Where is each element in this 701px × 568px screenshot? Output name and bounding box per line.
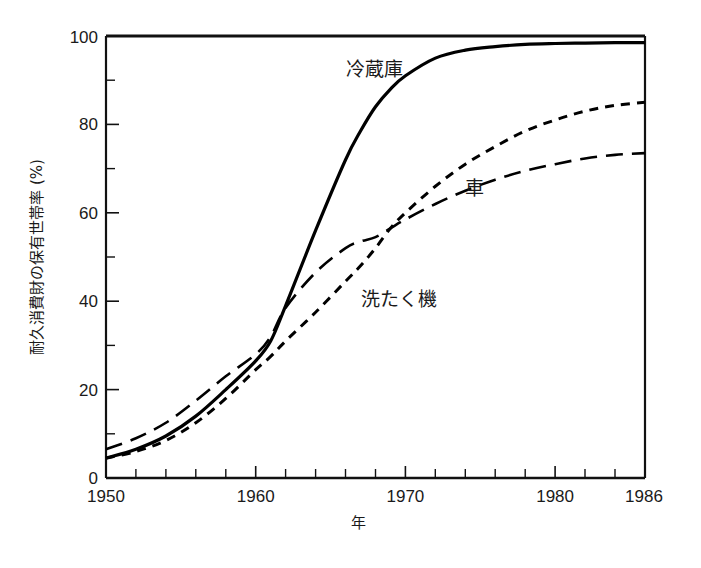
data-curves: [106, 43, 645, 459]
y-tick-label: 0: [89, 469, 98, 488]
series-line-car: [106, 102, 645, 458]
series-annotation-refrigerator: 冷蔵庫: [346, 58, 403, 80]
x-tick-label: 1980: [536, 487, 574, 506]
x-tick-label: 1970: [386, 487, 424, 506]
x-tick-label: 1950: [87, 487, 125, 506]
x-axis-ticks: [106, 466, 645, 478]
x-axis-title: 年: [351, 514, 366, 532]
plot-frame: [106, 36, 645, 478]
y-axis-ticks: [106, 36, 119, 478]
series-line-refrigerator: [106, 43, 645, 459]
y-tick-label: 20: [79, 381, 98, 400]
y-tick-label: 60: [79, 204, 98, 223]
y-tick-label: 100: [70, 28, 98, 47]
chart-canvas: 0 20 40 60 80 100: [0, 0, 701, 568]
y-axis-title: 耐久消費財の保有世帯率 (%): [28, 159, 46, 355]
y-axis-tick-labels: 0 20 40 60 80 100: [70, 28, 98, 489]
x-axis-tick-labels: 1950 1960 1970 1980 1986: [87, 487, 663, 506]
series-annotation-washing-machine: 洗たく機: [361, 288, 437, 310]
x-tick-label: 1960: [237, 487, 275, 506]
chart-figure: 0 20 40 60 80 100: [0, 0, 701, 568]
y-tick-label: 80: [79, 115, 98, 134]
x-tick-label: 1986: [625, 487, 663, 506]
series-annotation-car: 車: [465, 177, 484, 199]
y-tick-label: 40: [79, 292, 98, 311]
